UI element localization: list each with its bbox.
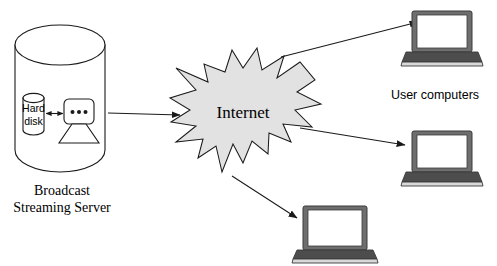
connection-server-to-internet: [108, 113, 180, 115]
laptop-bottom-screen: [308, 210, 362, 246]
server-caption-line1: Broadcast: [34, 183, 90, 198]
network-diagram: Hard disk Broadcast Streaming Server Int…: [0, 0, 497, 266]
laptop-bottom-keyboard: [293, 250, 377, 259]
hard-disk-label-line1: Hard: [22, 102, 45, 114]
internet-label: Internet: [217, 103, 270, 122]
laptop-top-keyboard: [402, 52, 482, 62]
connection-internet-to-laptop-bottom: [232, 176, 297, 218]
laptop-middle: [401, 131, 483, 186]
internet-cloud: Internet: [170, 48, 321, 172]
laptop-bottom: [292, 206, 378, 263]
server-caption-line2: Streaming Server: [13, 200, 111, 215]
laptop-top-base: [401, 62, 483, 66]
hard-disk-unit: Hard disk: [22, 93, 45, 135]
server-processor-unit: [59, 99, 99, 143]
processor-dot-3: [84, 110, 88, 114]
laptop-top: [401, 11, 483, 66]
laptop-bottom-base: [292, 259, 378, 263]
connection-internet-to-laptop-middle: [300, 128, 405, 145]
laptop-middle-base: [401, 182, 483, 186]
diagram-canvas: Hard disk Broadcast Streaming Server Int…: [0, 0, 497, 266]
laptop-middle-screen: [417, 135, 467, 168]
hard-disk-label-line2: disk: [24, 115, 43, 127]
processor-dot-1: [71, 110, 75, 114]
laptop-top-screen: [417, 15, 467, 48]
server-cylinder-top: [15, 25, 105, 65]
broadcast-streaming-server: Hard disk Broadcast Streaming Server: [13, 25, 111, 215]
laptop-middle-keyboard: [402, 172, 482, 182]
processor-dot-2: [77, 110, 81, 114]
user-computers-label: User computers: [391, 88, 479, 102]
connection-internet-to-laptop-top: [281, 22, 418, 57]
